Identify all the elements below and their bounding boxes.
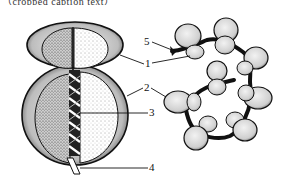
small-subunit — [27, 22, 123, 70]
label-5: 5 — [144, 36, 150, 47]
channel — [69, 70, 80, 156]
label-2: 2 — [144, 82, 150, 93]
label-3: 3 — [149, 107, 155, 118]
label-1: 1 — [145, 58, 151, 69]
ribosome-units — [164, 18, 272, 150]
diagram: （cropped caption text） 5 1 2 3 4 — [0, 0, 289, 189]
diagram-canvas — [0, 0, 289, 189]
polyribosome — [164, 18, 272, 150]
cropped-caption: （cropped caption text） — [0, 0, 289, 5]
label-4: 4 — [149, 162, 155, 173]
ribosome — [22, 22, 128, 174]
